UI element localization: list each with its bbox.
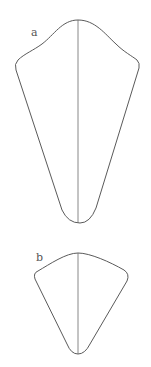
figure-canvas: a b	[0, 0, 151, 367]
shape-a-outline	[15, 20, 139, 223]
panel-a: a	[15, 20, 139, 223]
shape-b-outline	[34, 253, 128, 354]
panel-b-label: b	[36, 251, 43, 264]
panel-b: b	[34, 251, 128, 354]
panel-a-label: a	[31, 26, 38, 39]
